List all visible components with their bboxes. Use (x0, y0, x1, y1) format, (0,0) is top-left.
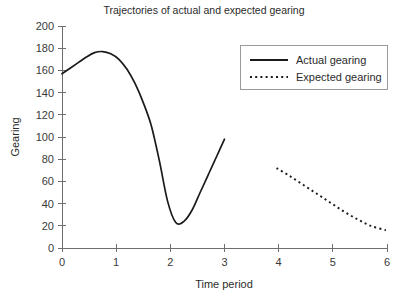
x-tick-label: 1 (113, 256, 119, 268)
x-tick-label: 4 (276, 256, 282, 268)
legend: Actual gearing Expected gearing (241, 46, 388, 90)
x-tick-label: 2 (167, 256, 173, 268)
legend-label-expected-gearing: Expected gearing (296, 71, 382, 83)
legend-label-actual-gearing: Actual gearing (296, 54, 366, 66)
x-tick-label: 3 (221, 256, 227, 268)
y-tick-label: 100 (36, 131, 54, 143)
chart-container: Trajectories of actual and expected gear… (0, 0, 408, 297)
x-tick-label: 6 (384, 256, 390, 268)
x-tick-label: 5 (330, 256, 336, 268)
y-tick-label: 80 (42, 153, 54, 165)
chart-title: Trajectories of actual and expected gear… (104, 4, 305, 16)
x-axis-title: Time period (195, 278, 253, 290)
y-tick-label: 60 (42, 175, 54, 187)
y-tick-label: 20 (42, 220, 54, 232)
chart-background (0, 0, 408, 297)
y-tick-label: 200 (36, 20, 54, 32)
y-tick-label: 160 (36, 64, 54, 76)
y-axis-title: Gearing (9, 117, 21, 156)
gearing-trajectory-chart: Trajectories of actual and expected gear… (0, 0, 408, 297)
x-tick-label: 0 (59, 256, 65, 268)
y-tick-label: 140 (36, 87, 54, 99)
y-tick-label: 0 (48, 242, 54, 254)
y-tick-label: 120 (36, 109, 54, 121)
y-tick-label: 180 (36, 42, 54, 54)
y-tick-label: 40 (42, 198, 54, 210)
